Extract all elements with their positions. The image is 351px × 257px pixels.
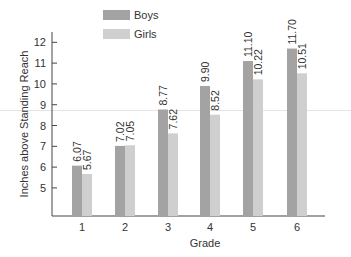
y-tick-label: 6 — [40, 161, 46, 173]
x-tick-label: 1 — [79, 221, 85, 233]
legend: BoysGirls — [103, 9, 159, 40]
data-label: 7.62 — [167, 109, 179, 130]
y-tick-label: 12 — [34, 36, 46, 48]
y-tick-label: 8 — [40, 120, 46, 132]
data-label: 7.05 — [124, 121, 136, 142]
data-label: 10.51 — [296, 43, 308, 69]
y-tick-label: 7 — [40, 140, 46, 152]
data-label: 5.67 — [81, 149, 93, 170]
x-tick-label: 4 — [207, 221, 213, 233]
girls-bar-grade-4 — [210, 115, 220, 216]
y-axis-label: Inches above Standing Reach — [18, 51, 30, 198]
data-label: 10.22 — [252, 49, 264, 75]
girls-bar-grade-5 — [253, 79, 263, 216]
data-label: 8.52 — [209, 90, 221, 111]
bar-chart: BoysGirls 56789101112123456 6.077.028.77… — [0, 0, 351, 257]
legend-label-girls: Girls — [134, 28, 157, 40]
y-tick-label: 5 — [40, 182, 46, 194]
y-tick-label: 11 — [35, 57, 46, 69]
x-tick-label: 6 — [294, 221, 300, 233]
data-label: 8.77 — [157, 85, 169, 106]
y-tick-label: 9 — [40, 99, 46, 111]
data-labels: 6.077.028.779.9011.1011.705.677.057.628.… — [71, 19, 308, 170]
boys-bar-grade-5 — [243, 61, 253, 216]
x-tick-label: 5 — [250, 221, 256, 233]
legend-swatch-boys — [103, 10, 130, 20]
data-label: 9.90 — [199, 61, 211, 82]
boys-bar-grade-6 — [287, 49, 297, 216]
x-axis-label: Grade — [190, 237, 221, 249]
legend-label-boys: Boys — [134, 9, 159, 21]
x-tick-label: 3 — [165, 221, 171, 233]
boys-bar-grade-2 — [115, 146, 125, 216]
y-tick-label: 10 — [34, 78, 46, 90]
boys-bar-grade-1 — [72, 166, 82, 216]
data-label: 11.70 — [286, 19, 298, 45]
x-tick-label: 2 — [122, 221, 128, 233]
bars — [72, 49, 307, 216]
legend-swatch-girls — [103, 29, 130, 39]
girls-bar-grade-3 — [168, 133, 178, 216]
girls-bar-grade-2 — [125, 145, 135, 216]
girls-bar-grade-6 — [297, 73, 307, 216]
girls-bar-grade-1 — [82, 174, 92, 216]
